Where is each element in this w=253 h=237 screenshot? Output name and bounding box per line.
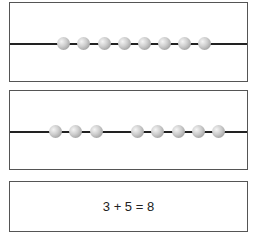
abacus-panel-split <box>9 90 248 170</box>
bead <box>198 37 211 50</box>
bead <box>158 37 171 50</box>
bead <box>178 37 191 50</box>
bead <box>77 37 90 50</box>
equation-text: 3 + 5 = 8 <box>10 199 247 214</box>
bead <box>151 125 164 138</box>
abacus-panel-combined <box>9 2 248 82</box>
bead <box>131 125 144 138</box>
equation-panel: 3 + 5 = 8 <box>9 181 248 232</box>
bead <box>57 37 70 50</box>
bead <box>212 125 225 138</box>
bead <box>49 125 62 138</box>
bead <box>192 125 205 138</box>
bead <box>69 125 82 138</box>
bead <box>138 37 151 50</box>
bead <box>90 125 103 138</box>
bead <box>172 125 185 138</box>
bead <box>98 37 111 50</box>
bead <box>118 37 131 50</box>
